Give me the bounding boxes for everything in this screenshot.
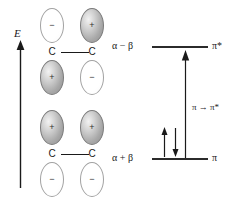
pi-bottom-left-lobe: − [40,162,64,197]
electron-arrow-spin-down [173,128,179,157]
carbon-atom-left: C [45,147,59,161]
energy-axis-arrow [17,40,25,188]
pi-top-left-lobe: + [40,110,64,145]
electron-arrow-spin-up [162,127,168,157]
pi-orbital-diagram: + + C C − − [38,110,112,198]
pi-bottom-right-lobe: − [80,162,104,197]
pi-star-bottom-left-lobe: + [40,60,64,95]
lobe-sign: + [49,73,54,82]
pi-star-bottom-lobe-row: + − [38,60,112,96]
carbon-atom-left: C [45,45,59,59]
energy-term-pi: α + β [112,153,133,163]
pi-star-carbon-backbone: C C [38,44,112,60]
lobe-sign: − [89,175,94,184]
pi-top-right-lobe: + [80,110,104,145]
excitation-arrow [182,50,189,158]
lobe-sign: + [89,123,94,132]
pi-star-top-lobe-row: − + [38,8,112,44]
lobe-sign: + [49,123,54,132]
pi-star-top-left-lobe: − [40,8,64,43]
orbital-label-pi-star: π* [212,41,222,51]
lobe-sign: − [89,73,94,82]
carbon-atom-right: C [85,147,99,161]
orbital-label-pi: π [212,153,217,163]
energy-level-pi-star [152,46,208,48]
pi-star-bottom-right-lobe: − [80,60,104,95]
pi-star-orbital-diagram: − + C C + − [38,8,112,96]
energy-level-pi [152,158,208,160]
transition-label: π → π* [192,103,219,112]
energy-axis-label: E [14,28,21,39]
pi-to-pi-star-mo-diagram: E − + C C + − + [0,0,234,203]
lobe-sign: − [49,175,54,184]
pi-star-top-right-lobe: + [80,8,104,43]
carbon-atom-right: C [85,45,99,59]
pi-carbon-backbone: C C [38,146,112,162]
lobe-sign: + [89,21,94,30]
energy-term-pi-star: α − β [112,41,133,51]
lobe-sign: − [49,21,54,30]
pi-bottom-lobe-row: − − [38,162,112,198]
pi-top-lobe-row: + + [38,110,112,146]
